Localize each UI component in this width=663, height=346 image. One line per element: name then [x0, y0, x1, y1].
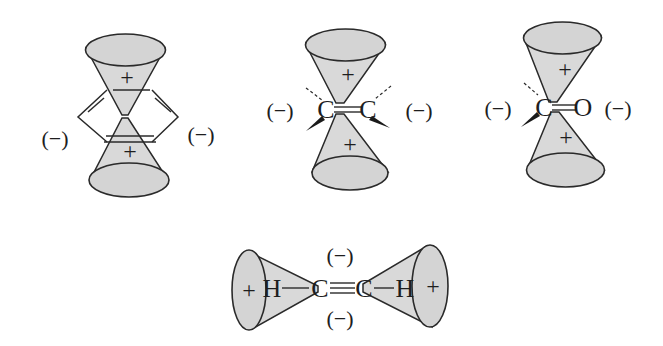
benzene-lower-rim [89, 163, 169, 197]
alkene-atom-right: C [359, 95, 376, 124]
alkene-dashed-bond-right [375, 86, 391, 99]
benzene-ring-left [78, 90, 107, 142]
benzene-ring-double-right [155, 98, 171, 112]
alkyne-top-sign: (−) [326, 243, 353, 268]
benzene-upper-rim [86, 34, 166, 66]
benzene-bottom-sign: + [123, 138, 137, 164]
carbonyl-lower-rim [527, 153, 605, 187]
carbonyl-left-sign: (−) [484, 96, 511, 121]
alkyne-c-right: C [355, 274, 372, 303]
carbonyl-atom-c: C [535, 93, 552, 122]
benzene-right-sign: (−) [187, 122, 214, 147]
alkyne-c-left: C [311, 274, 328, 303]
alkyne-h-left: H [263, 274, 282, 303]
alkene-lower-rim [312, 156, 388, 190]
alkyne-bottom-sign: (−) [326, 306, 353, 331]
anisotropy-diagram: + + (−) (−) C C + + (−) (−) C O [0, 0, 663, 346]
benzene-left-sign: (−) [41, 126, 68, 151]
carbonyl-cone-group: C O + + (−) (−) [484, 22, 631, 187]
alkyne-h-right: H [396, 274, 415, 303]
alkyne-cone-group: H C C H + + (−) (−) [232, 243, 448, 331]
alkene-bottom-sign: + [343, 131, 357, 157]
alkene-right-sign: (−) [405, 98, 432, 123]
carbonyl-right-sign: (−) [604, 96, 631, 121]
alkene-top-sign: + [341, 61, 355, 87]
carbonyl-upper-rim [524, 22, 602, 54]
alkyne-right-sign: + [426, 273, 440, 299]
carbonyl-atom-o: O [574, 93, 593, 122]
carbonyl-top-sign: + [558, 56, 572, 82]
alkene-left-sign: (−) [266, 98, 293, 123]
benzene-cone-group: + + (−) (−) [41, 34, 214, 197]
alkene-atom-left: C [317, 95, 334, 124]
alkene-cone-group: C C + + (−) (−) [266, 29, 432, 190]
alkene-upper-rim [306, 29, 386, 61]
benzene-top-sign: + [120, 64, 134, 90]
alkyne-left-sign: + [242, 277, 256, 303]
carbonyl-bottom-sign: + [559, 124, 573, 150]
